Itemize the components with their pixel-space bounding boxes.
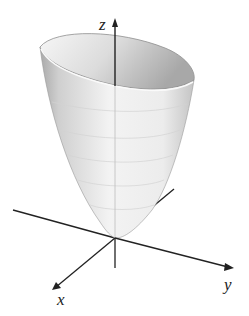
x-axis-label: x [56,290,65,309]
paraboloid-diagram: z x y [0,0,249,316]
y-axis-arrowhead [224,263,234,271]
y-axis-label: y [222,275,232,294]
z-axis-arrowhead [112,18,118,27]
y-axis [115,238,228,267]
x-axis [56,238,115,287]
z-axis-label: z [98,15,106,34]
